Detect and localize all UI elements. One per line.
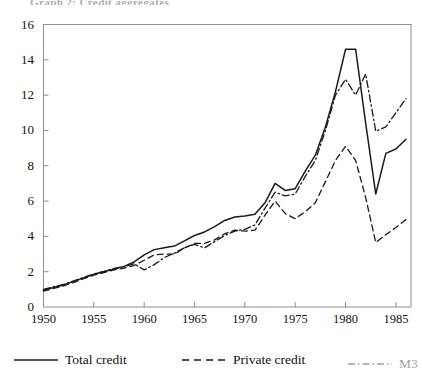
legend-label-m3: M3	[399, 357, 418, 370]
y-tick-label: 8	[4, 159, 34, 172]
x-tick-label: 1980	[323, 313, 369, 326]
x-tick-label: 1970	[222, 313, 268, 326]
x-tick-label: 1975	[272, 313, 318, 326]
x-tick-label: 1955	[71, 313, 117, 326]
legend-key-solid-icon	[14, 355, 58, 365]
x-tick-label: 1985	[373, 313, 419, 326]
y-tick-label: 12	[4, 88, 34, 101]
x-tick-label: 1960	[121, 313, 167, 326]
legend-key-dashdot-icon	[348, 359, 392, 369]
chart-legend: Total credit Private credit M3	[0, 352, 422, 370]
y-tick-label: 4	[4, 229, 34, 242]
x-tick-label: 1965	[172, 313, 218, 326]
y-tick-label: 10	[4, 123, 34, 136]
y-tick-label: 0	[4, 300, 34, 313]
legend-item-total-credit: Total credit	[14, 353, 127, 367]
chart-title-clipped: Graph 2: Credit aggregates	[30, 0, 170, 5]
legend-label-total-credit: Total credit	[65, 353, 127, 367]
y-tick-label: 16	[4, 18, 34, 31]
legend-item-private-credit: Private credit	[182, 353, 305, 367]
legend-key-dashed-icon	[182, 355, 226, 365]
x-tick-label: 1950	[21, 313, 67, 326]
legend-label-private-credit: Private credit	[233, 353, 305, 367]
y-tick-label: 6	[4, 194, 34, 207]
legend-item-m3: M3	[348, 357, 418, 370]
y-tick-label: 2	[4, 265, 34, 278]
y-tick-label: 14	[4, 53, 34, 66]
